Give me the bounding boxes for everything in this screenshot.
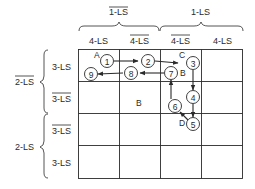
karnaugh-grid [79, 50, 243, 179]
column-group-brace [160, 22, 243, 31]
row-header: 3-LS [52, 126, 71, 136]
row-group-brace [40, 114, 48, 178]
column-header: 4-LS [130, 36, 149, 46]
state-node-7: 7 [165, 67, 178, 80]
row-group-brace [40, 50, 48, 113]
row-group-label: 2-LS [15, 77, 34, 87]
svg-text:1: 1 [105, 57, 110, 67]
column-group-brace [79, 22, 159, 31]
state-node-2: 2 [142, 55, 155, 68]
state-node-3: 3 [187, 57, 200, 70]
row-header: 3-LS [52, 94, 71, 104]
svg-text:9: 9 [89, 70, 94, 80]
svg-text:4: 4 [191, 93, 196, 103]
svg-text:6: 6 [173, 102, 178, 112]
column-header: 4-LS [213, 36, 232, 46]
svg-text:5: 5 [191, 120, 196, 130]
point-label-b: B [180, 68, 186, 78]
state-node-6: 6 [169, 100, 182, 113]
column-group-not-1ls: 1-LS [109, 7, 128, 17]
column-group-1ls: 1-LS [191, 7, 210, 17]
svg-text:8: 8 [129, 69, 134, 79]
state-node-8: 8 [125, 67, 138, 80]
state-node-1: 1 [101, 55, 114, 68]
state-node-9: 9 [85, 68, 98, 81]
column-group-label: 1-LS [109, 7, 128, 17]
point-label-a: A [94, 50, 100, 60]
svg-text:2: 2 [146, 57, 151, 67]
state-node-4: 4 [187, 91, 200, 104]
svg-text:3: 3 [191, 59, 196, 69]
state-node-5: 5 [187, 118, 200, 131]
row-header: 3-LS [52, 158, 71, 168]
svg-text:7: 7 [169, 69, 174, 79]
column-header: 4-LS [89, 36, 108, 46]
region-label-b: B [136, 98, 142, 108]
column-group-label: 1-LS [191, 7, 210, 17]
point-label-c: C [179, 50, 185, 60]
karnaugh-map-diagram: 1-LS 1-LS 4-LS 4-LS 4-LS 4-LS 2-LS 2-LS … [0, 0, 255, 189]
point-label-d: D [179, 118, 185, 128]
row-header: 3-LS [52, 62, 71, 72]
arrow-2-to-3 [155, 61, 178, 63]
row-group-label: 2-LS [15, 142, 34, 152]
column-header: 4-LS [171, 36, 190, 46]
